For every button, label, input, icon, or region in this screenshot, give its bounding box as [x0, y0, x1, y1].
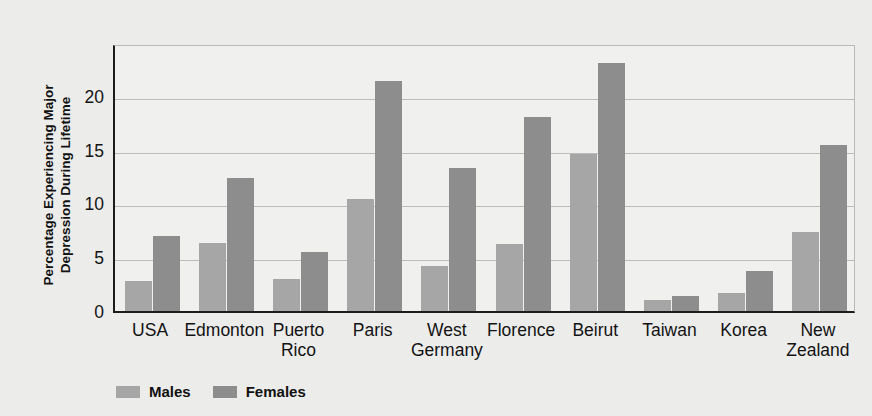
bar-females-new-zealand: [820, 145, 847, 311]
bar-males-west-germany: [421, 266, 448, 311]
gridline: [115, 153, 854, 154]
x-axis-label-line-2: Germany: [387, 340, 507, 360]
legend-label-females: Females: [246, 383, 306, 400]
bar-males-edmonton: [199, 243, 226, 311]
x-axis-label-line-2: Rico: [239, 340, 359, 360]
bar-males-florence: [496, 244, 523, 311]
bar-females-usa: [153, 236, 180, 311]
legend-swatch-males: [116, 386, 140, 398]
x-axis-label-new-zealand: NewZealand: [758, 320, 872, 360]
bar-females-korea: [746, 271, 773, 311]
bar-females-west-germany: [449, 168, 476, 311]
bar-females-beirut: [598, 63, 625, 311]
x-axis-label-line-2: Zealand: [758, 340, 872, 360]
bar-females-florence: [524, 117, 551, 311]
bar-males-korea: [718, 293, 745, 311]
bar-females-taiwan: [672, 296, 699, 311]
y-axis-tick-label: 5: [62, 248, 104, 269]
bar-females-paris: [375, 81, 402, 311]
y-axis-tick-label: 10: [62, 194, 104, 215]
bar-males-new-zealand: [792, 232, 819, 311]
legend-label-males: Males: [149, 383, 191, 400]
bar-males-taiwan: [644, 300, 671, 311]
bar-males-usa: [125, 281, 152, 311]
bar-males-paris: [347, 199, 374, 311]
legend-item-females: Females: [213, 383, 306, 400]
gridline: [115, 99, 854, 100]
legend-item-males: Males: [116, 383, 191, 400]
bar-females-puerto-rico: [301, 252, 328, 311]
bar-males-puerto-rico: [273, 279, 300, 311]
bar-females-edmonton: [227, 178, 254, 311]
plot-area: [113, 45, 855, 313]
legend: MalesFemales: [116, 383, 306, 400]
y-axis-tick-label: 15: [62, 141, 104, 162]
x-axis-label-line-1: New: [758, 320, 872, 340]
y-axis-tick-label: 20: [62, 87, 104, 108]
y-axis-title-line-1: Percentage Experiencing Major: [40, 51, 57, 319]
bar-males-beirut: [570, 154, 597, 311]
legend-swatch-females: [213, 386, 237, 398]
chart-figure: Percentage Experiencing Major Depression…: [0, 0, 872, 416]
